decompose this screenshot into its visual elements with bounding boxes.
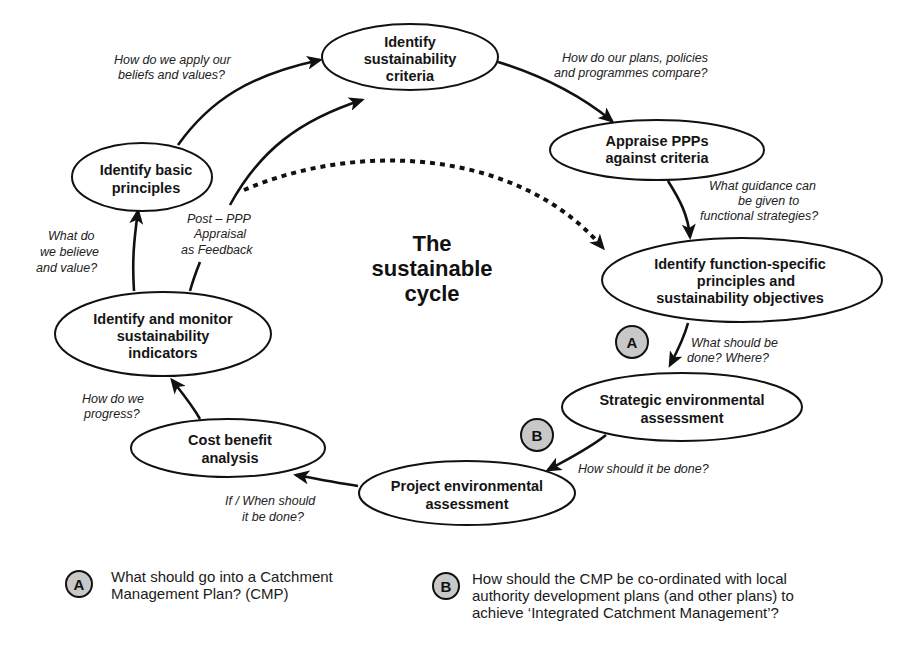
question-if-when: If / When should it be done? (225, 494, 316, 524)
legend-line: Management Plan? (CMP) (111, 585, 289, 602)
legend-badge: A (74, 576, 85, 593)
question-line: What should be (691, 336, 778, 350)
question-line: If / When should (225, 494, 316, 508)
title-line: cycle (404, 281, 459, 306)
node-label: Project environmental (391, 478, 543, 494)
title-line: sustainable (371, 256, 492, 281)
arrow-function-to-strategic (670, 323, 688, 365)
node-appraise-ppps: Appraise PPPs against criteria (550, 120, 764, 180)
question-apply-beliefs: How do we apply our beliefs and values? (114, 53, 232, 82)
arrow-feedback-to-criteria (230, 100, 362, 205)
node-label: against criteria (605, 150, 709, 166)
question-line: How do our plans, policies (562, 51, 708, 65)
question-line: done? Where? (687, 351, 769, 365)
badge-letter: A (627, 334, 638, 351)
arrow-monitor-to-feedback (190, 262, 200, 291)
badge-a: A (616, 326, 648, 358)
node-label: indicators (128, 345, 197, 361)
node-label: criteria (386, 68, 435, 84)
node-label: Identify function-specific (654, 256, 826, 272)
arrow-appraise-to-function (668, 181, 690, 237)
question-line: it be done? (242, 510, 304, 524)
question-progress: How do we progress? (82, 392, 144, 421)
node-label: Appraise PPPs (605, 133, 708, 149)
node-label: assessment (640, 410, 723, 426)
node-label: Identify and monitor (93, 311, 233, 327)
question-believe-value: What do we believe and value? (36, 229, 99, 275)
legend-item-a: A What should go into a Catchment Manage… (66, 568, 334, 602)
question-line: How should it be done? (578, 462, 709, 476)
question-line: What do (48, 229, 95, 243)
question-plans-compare: How do our plans, policies and programme… (554, 51, 708, 80)
arrow-cost-to-monitor (172, 380, 200, 419)
legend-line: authority development plans (and other p… (472, 587, 794, 604)
question-line: be given to (738, 194, 799, 208)
arrow-monitor-to-basic (133, 211, 138, 291)
diagram-title: The sustainable cycle (371, 231, 492, 306)
node-identify-function-specific: Identify function-specific principles an… (602, 238, 882, 322)
question-line: functional strategies? (700, 209, 818, 223)
question-line: How do we (82, 392, 144, 406)
node-cost-benefit-analysis: Cost benefit analysis (131, 419, 325, 477)
question-what-where: What should be done? Where? (687, 336, 778, 365)
node-label: Identify (384, 34, 436, 50)
node-identify-monitor-indicators: Identify and monitor sustainability indi… (55, 292, 271, 376)
node-identify-basic-principles: Identify basic principles (72, 143, 212, 211)
question-how-done: How should it be done? (578, 462, 709, 476)
question-line: Appraisal (193, 227, 247, 241)
question-line: beliefs and values? (118, 68, 225, 82)
question-line: How do we apply our (114, 53, 232, 67)
legend-item-b: B How should the CMP be co-ordinated wit… (433, 570, 794, 621)
arrow-project-to-cost (296, 475, 358, 486)
title-line: The (412, 231, 451, 256)
question-line: Post – PPP (187, 212, 252, 226)
node-label: principles and (697, 273, 795, 289)
question-line: What guidance can (709, 179, 816, 193)
node-label: sustainability (364, 51, 457, 67)
badge-b: B (521, 419, 553, 451)
node-label: sustainability (117, 328, 210, 344)
node-label: principles (112, 180, 181, 196)
node-label: sustainability objectives (656, 290, 824, 306)
legend-badge: B (441, 578, 452, 595)
legend-line: How should the CMP be co-ordinated with … (472, 570, 787, 587)
badge-letter: B (532, 427, 543, 444)
question-line: progress? (83, 407, 140, 421)
question-line: we believe (40, 245, 99, 259)
question-line: as Feedback (181, 243, 253, 257)
node-label: analysis (201, 450, 258, 466)
feedback-label: Post – PPP Appraisal as Feedback (181, 212, 253, 257)
node-label: Identify basic (100, 162, 193, 178)
node-identify-sustainability-criteria: Identify sustainability criteria (322, 24, 498, 90)
node-project-environmental-assessment: Project environmental assessment (359, 461, 575, 525)
question-line: and programmes compare? (554, 66, 708, 80)
question-guidance: What guidance can be given to functional… (700, 179, 818, 223)
legend-line: achieve ‘Integrated Catchment Management… (472, 604, 779, 621)
node-label: Strategic environmental (599, 392, 764, 408)
sustainable-cycle-diagram: Identify sustainability criteria Apprais… (0, 0, 897, 654)
node-label: Cost benefit (188, 432, 272, 448)
node-strategic-environmental-assessment: Strategic environmental assessment (562, 373, 802, 441)
node-label: assessment (425, 496, 508, 512)
question-line: and value? (36, 261, 97, 275)
legend-line: What should go into a Catchment (111, 568, 334, 585)
